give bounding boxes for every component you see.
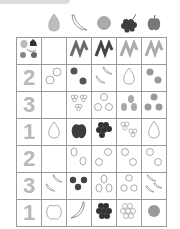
cell-dark-oranges — [67, 65, 92, 92]
cell-empty — [42, 92, 67, 119]
scribble-light — [142, 38, 167, 65]
cell-dark-grapes — [92, 200, 117, 227]
cell-pears — [92, 173, 117, 200]
cell-banana — [67, 200, 92, 227]
scribble-dark — [67, 38, 92, 65]
cell-grey-oranges — [142, 65, 167, 92]
cell-grey-orange — [142, 200, 167, 227]
cell-dark-oranges — [67, 173, 92, 200]
cell-oranges — [117, 173, 142, 200]
apple-icon — [141, 11, 166, 35]
cell-pear — [142, 119, 167, 146]
row-number: 2 — [17, 65, 42, 92]
cell-grapes — [117, 119, 142, 146]
cell-grey-oranges — [142, 92, 167, 119]
cell-bananas — [42, 173, 67, 200]
row-number: 1 — [17, 119, 42, 146]
grapes-icon — [116, 11, 141, 35]
cell-pear — [117, 65, 142, 92]
cell-oranges — [117, 146, 142, 173]
worksheet-grid: 2 3 1 2 3 1 — [16, 37, 167, 227]
row-number: 3 — [17, 173, 42, 200]
cell-dark-grapes — [92, 119, 117, 146]
cell-pears — [67, 146, 92, 173]
pear-icon — [41, 11, 66, 35]
cell-oranges — [42, 65, 67, 92]
cell-pear — [42, 119, 67, 146]
cell-oranges — [92, 92, 117, 119]
cell-bananas — [142, 173, 167, 200]
scribble-light — [117, 38, 142, 65]
scribble-dark — [92, 38, 117, 65]
cell-grapes — [117, 200, 142, 227]
cell-bananas — [92, 65, 117, 92]
cell-grapes — [67, 92, 92, 119]
banana-icon — [66, 11, 91, 35]
top-bar — [0, 0, 70, 4]
row-number: 2 — [17, 146, 42, 173]
cell-oranges — [92, 146, 117, 173]
cell-apple — [42, 200, 67, 227]
cell-empty — [42, 146, 67, 173]
cell-grey-pears — [117, 92, 142, 119]
header-cell-empty — [42, 38, 67, 65]
row-number: 3 — [17, 92, 42, 119]
corner-cell — [17, 38, 42, 65]
row-number: 1 — [17, 200, 42, 227]
cell-dark-apple — [67, 119, 92, 146]
cell-oranges — [142, 146, 167, 173]
orange-icon — [91, 11, 116, 35]
header-fruits — [41, 11, 166, 35]
